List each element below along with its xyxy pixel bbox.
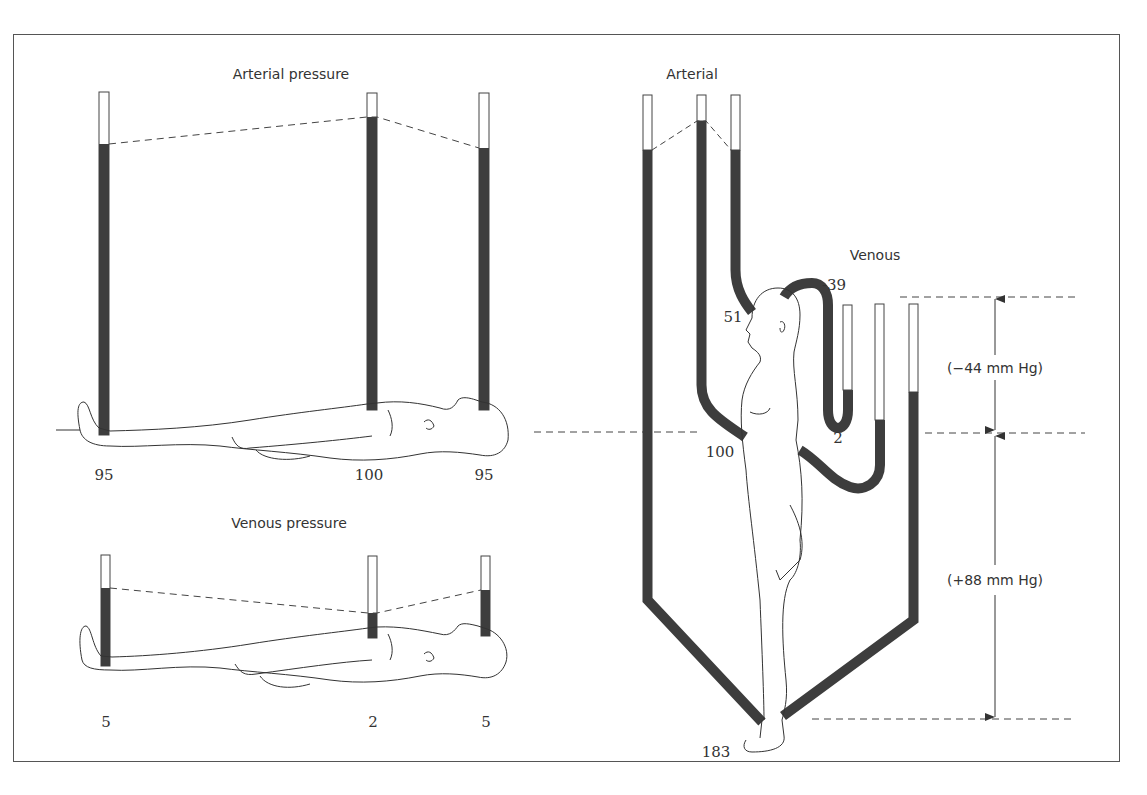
manometer-ankle-venous xyxy=(101,555,110,666)
arterial-pressure-title: Arterial pressure xyxy=(233,66,349,82)
arterial-title: Arterial xyxy=(666,66,718,82)
standing-venous-head-value: -39 xyxy=(822,276,846,294)
above-heart-label: (−44 mm Hg) xyxy=(947,360,1043,376)
venous-ankle-value: 5 xyxy=(101,713,111,731)
standing-arterial-foot-value: 183 xyxy=(702,743,731,761)
supine-body-lower xyxy=(80,624,507,688)
standing-venous-heart-value: 2 xyxy=(833,429,843,447)
arterial-head-manometer xyxy=(731,95,752,312)
supine-body-upper xyxy=(56,398,508,460)
manometer-head-arterial xyxy=(479,93,489,410)
below-heart-label: (+88 mm Hg) xyxy=(947,572,1043,588)
standing-arterial-heart-value: 100 xyxy=(706,443,735,461)
venous-heart-manometer xyxy=(800,304,884,488)
venous-head-value: 5 xyxy=(481,713,491,731)
supine-arterial-group: Arterial pressure 95 100 95 xyxy=(56,66,508,484)
manometer-heart-venous xyxy=(368,556,377,638)
arterial-heart-value: 100 xyxy=(355,466,384,484)
standing-group: Arterial Venous xyxy=(534,66,1085,761)
arterial-head-value: 95 xyxy=(474,466,493,484)
standing-body xyxy=(741,288,802,752)
venous-title: Venous xyxy=(850,247,901,263)
manometer-head-venous xyxy=(481,556,490,636)
supine-venous-group: Venous pressure 5 2 5 xyxy=(80,515,507,731)
manometer-ankle-arterial xyxy=(99,92,109,435)
venous-pressure-title: Venous pressure xyxy=(231,515,347,531)
dimension-above-heart: (−44 mm Hg) xyxy=(947,299,1043,430)
standing-arterial-level-line xyxy=(652,121,731,150)
standing-arterial-head-value: 51 xyxy=(723,308,742,326)
venous-level-line xyxy=(110,588,481,613)
dimension-below-heart: (+88 mm Hg) xyxy=(947,436,1043,717)
manometer-heart-arterial xyxy=(367,93,377,410)
hydrostatic-pressure-diagram: Arterial pressure 95 100 95 Veno xyxy=(0,0,1147,795)
arterial-ankle-value: 95 xyxy=(94,466,113,484)
venous-heart-value: 2 xyxy=(368,713,378,731)
arterial-level-line xyxy=(109,117,479,148)
